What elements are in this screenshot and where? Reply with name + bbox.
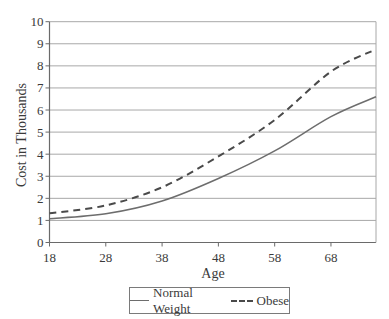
obese-line <box>50 49 377 213</box>
y-tick-label: 2 <box>37 191 44 206</box>
solid-line-swatch-icon <box>130 300 149 301</box>
normal-weight-line <box>50 97 377 219</box>
x-tick-label: 38 <box>156 250 169 265</box>
x-tick-label: 68 <box>324 250 337 265</box>
y-tick-label: 9 <box>37 36 44 51</box>
y-tick-label: 10 <box>31 14 44 29</box>
legend-label: Normal Weight <box>153 285 222 317</box>
dashed-line-swatch-icon <box>231 300 253 302</box>
legend-item-obese: Obese <box>231 293 290 309</box>
gridlines <box>50 22 377 243</box>
x-tick-label: 18 <box>43 250 56 265</box>
x-tick-label: 28 <box>99 250 112 265</box>
y-tick-label: 8 <box>37 58 44 73</box>
data-series <box>50 49 377 218</box>
y-tick-label: 1 <box>37 213 44 228</box>
x-tick-label: 48 <box>212 250 225 265</box>
x-axis-ticks: 182838485868 <box>43 243 337 265</box>
y-axis-label: Cost in Thousands <box>14 83 29 187</box>
legend-item-normal-weight: Normal Weight <box>130 285 223 317</box>
legend-label: Obese <box>257 293 290 309</box>
y-axis-ticks: 012345678910 <box>31 14 50 250</box>
y-tick-label: 3 <box>37 169 44 184</box>
line-chart: 012345678910 182838485868 Age Cost in Th… <box>0 0 389 285</box>
y-tick-label: 0 <box>37 235 44 250</box>
y-tick-label: 4 <box>37 147 44 162</box>
y-tick-label: 7 <box>37 80 44 95</box>
x-tick-label: 58 <box>268 250 281 265</box>
y-tick-label: 6 <box>37 103 44 118</box>
x-axis-label: Age <box>201 266 224 281</box>
y-tick-label: 5 <box>37 125 44 140</box>
chart-legend: Normal Weight Obese <box>129 287 290 314</box>
